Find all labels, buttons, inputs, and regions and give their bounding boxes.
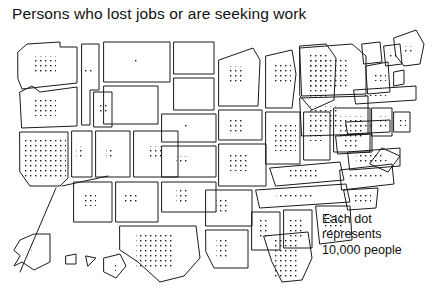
dots-nebraska <box>182 124 190 127</box>
legend-line-2: represents <box>322 227 402 242</box>
dots-arkansas <box>216 198 230 212</box>
dots-louisiana <box>216 238 230 257</box>
dots-massachusetts <box>362 92 386 96</box>
dots-nevada <box>99 104 108 113</box>
dots-florida <box>274 240 298 278</box>
dots-wyoming <box>128 102 131 105</box>
dots-alaska <box>31 242 34 251</box>
dots-montana <box>134 60 137 63</box>
map-legend: Each dot represents 10,000 people <box>322 212 402 258</box>
dots-rhode-island <box>396 76 400 79</box>
legend-line-3: 10,000 people <box>322 243 402 258</box>
dots-oregon <box>32 98 56 116</box>
dot-density-map-figure: Persons who lost jobs or are seeking wor… <box>0 0 432 302</box>
dots-dc-diamond <box>382 158 390 161</box>
dots-illinois <box>272 122 296 151</box>
dots-delaware <box>398 118 406 126</box>
dots-kansas <box>176 156 190 165</box>
state-idaho <box>82 44 99 125</box>
dots-utah <box>106 148 115 157</box>
dots-texas <box>136 234 175 268</box>
dots-new-hampshire <box>390 54 398 57</box>
dots-wisconsin <box>272 64 291 83</box>
dots-west-virginia <box>344 140 358 148</box>
state-hawaii-1 <box>66 254 76 264</box>
dots-missouri <box>228 152 247 171</box>
dots-pennsylvania <box>310 106 339 130</box>
dots-maine <box>404 46 412 54</box>
dots-arizona <box>82 192 96 206</box>
dots-vermont <box>370 52 373 55</box>
dots-colorado <box>148 146 162 160</box>
dots-kentucky <box>288 170 317 178</box>
dots-iowa <box>230 118 244 132</box>
dots-north-dakota <box>192 56 195 59</box>
dots-california <box>25 138 66 180</box>
dots-virginia <box>356 154 385 162</box>
state-nebraska <box>162 114 216 142</box>
dots-idaho <box>85 68 93 72</box>
dots-minnesota <box>230 66 244 85</box>
dots-new-mexico <box>124 194 138 203</box>
dots-tennessee <box>276 192 315 200</box>
dots-oklahoma <box>176 190 190 204</box>
dots-connecticut <box>372 72 386 81</box>
dots-new-jersey <box>377 116 386 130</box>
dots-alabama <box>290 218 304 237</box>
legend-line-1: Each dot <box>322 212 402 227</box>
dots-maryland <box>356 124 375 128</box>
dots-south-dakota <box>192 92 195 95</box>
dots-washington <box>32 56 56 74</box>
dots-north-carolina <box>348 172 382 180</box>
inset-divider <box>20 188 56 272</box>
dots-mississippi <box>260 220 269 239</box>
state-alaska <box>14 234 50 270</box>
state-hawaii-2 <box>86 256 96 266</box>
dots-new-york <box>308 58 347 87</box>
dots-nevada-lower <box>76 146 85 160</box>
dots-south-carolina <box>352 194 371 202</box>
dots-hawaii <box>113 262 116 271</box>
